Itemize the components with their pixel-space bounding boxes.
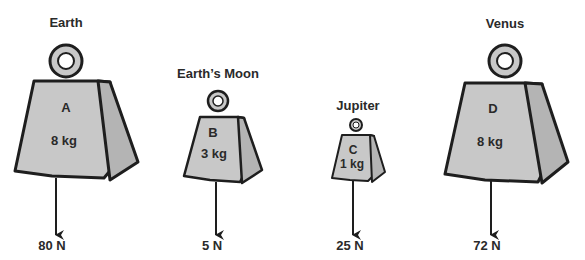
force-label: 72 N (473, 238, 500, 253)
weight-mass: 8 kg (477, 134, 503, 149)
weight-letter: B (208, 125, 217, 140)
force-label: 25 N (336, 238, 363, 253)
planet-label: Jupiter (336, 98, 379, 113)
weight-letter: A (61, 100, 70, 115)
weight-mass: 3 kg (201, 146, 227, 161)
planet-label: Earth’s Moon (177, 66, 259, 81)
weight-d (445, 45, 568, 235)
weight-letter: D (488, 101, 497, 116)
force-label: 80 N (38, 238, 65, 253)
weight-mass: 8 kg (51, 133, 77, 148)
planet-label: Venus (486, 16, 524, 31)
weight-b (184, 91, 262, 235)
weight-letter: C (349, 143, 358, 157)
planet-label: Earth (49, 15, 82, 30)
weight-c (332, 119, 385, 235)
weights-diagram (0, 0, 585, 260)
force-label: 5 N (202, 238, 222, 253)
weight-mass: 1 kg (340, 157, 364, 171)
